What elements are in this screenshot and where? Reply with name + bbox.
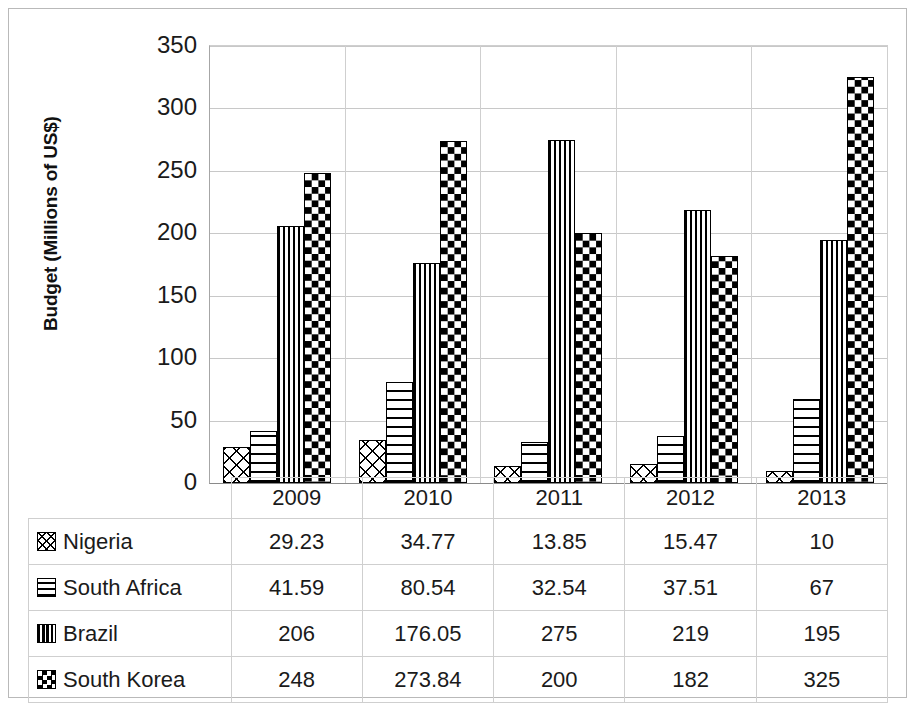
table-cell-southafrica-2010: 80.54 [362, 565, 493, 611]
table-column-header-2011: 2011 [494, 478, 625, 519]
bar-brazil-2013[interactable] [820, 240, 847, 483]
y-axis-tick-250: 250 [119, 158, 197, 182]
bar-brazil-2012[interactable] [684, 210, 711, 483]
table-cell-brazil-2009: 206 [231, 611, 362, 657]
bar-brazil-2011[interactable] [548, 140, 575, 483]
y-axis-tick-200: 200 [119, 220, 197, 244]
chart-plot-region: Budget (Millions of US$) 050100150200250… [9, 9, 906, 479]
y-axis-tick-labels: 050100150200250300350 [119, 37, 197, 487]
table-column-header-2009: 2009 [231, 478, 362, 519]
table-row: South Korea248273.84200182325 [29, 657, 888, 703]
bar-brazil-2010[interactable] [413, 263, 440, 483]
south-africa-swatch-icon [37, 578, 56, 597]
bar-southkorea-2010[interactable] [440, 141, 467, 483]
bar-southkorea-2011[interactable] [575, 233, 602, 483]
bar-southafrica-2010[interactable] [386, 382, 413, 483]
table-cell-southafrica-2012: 37.51 [625, 565, 756, 611]
bar-groups [210, 46, 887, 483]
bar-southafrica-2009[interactable] [250, 431, 277, 483]
chart-frame: Budget (Millions of US$) 050100150200250… [8, 8, 907, 698]
table-cell-nigeria-2013: 10 [756, 519, 887, 565]
bar-group-2013 [752, 46, 887, 483]
table-column-header-2012: 2012 [625, 478, 756, 519]
y-axis-tick-150: 150 [119, 283, 197, 307]
legend-label-nigeria: Nigeria [63, 529, 133, 555]
south-korea-swatch-icon [37, 670, 56, 689]
y-axis-tick-100: 100 [119, 345, 197, 369]
table-row: Nigeria29.2334.7713.8515.4710 [29, 519, 888, 565]
table-row: South Africa41.5980.5432.5437.5167 [29, 565, 888, 611]
table-cell-southkorea-2012: 182 [625, 657, 756, 703]
table-cell-southafrica-2009: 41.59 [231, 565, 362, 611]
table-cell-brazil-2010: 176.05 [362, 611, 493, 657]
legend-label-southafrica: South Africa [63, 575, 182, 601]
table-cell-nigeria-2010: 34.77 [362, 519, 493, 565]
table-column-header-2010: 2010 [362, 478, 493, 519]
bar-southkorea-2013[interactable] [847, 77, 874, 483]
bar-southkorea-2009[interactable] [304, 173, 331, 483]
table-cell-brazil-2012: 219 [625, 611, 756, 657]
table-row: Brazil206176.05275219195 [29, 611, 888, 657]
nigeria-swatch-icon [37, 532, 56, 551]
table-cell-southkorea-2011: 200 [494, 657, 625, 703]
table-cell-southkorea-2013: 325 [756, 657, 887, 703]
y-axis-tick-50: 50 [119, 408, 197, 432]
bar-brazil-2009[interactable] [277, 226, 304, 483]
bar-group-2011 [481, 46, 617, 483]
table-cell-nigeria-2009: 29.23 [231, 519, 362, 565]
bar-group-2012 [617, 46, 753, 483]
bar-southafrica-2013[interactable] [793, 399, 820, 483]
table-cell-brazil-2011: 275 [494, 611, 625, 657]
legend-label-southkorea: South Korea [63, 667, 185, 693]
table-corner-cell [29, 478, 232, 519]
plot-area [209, 45, 888, 484]
bar-southafrica-2012[interactable] [657, 436, 684, 483]
table-header-row: 20092010201120122013 [29, 478, 888, 519]
table-column-header-2013: 2013 [756, 478, 887, 519]
table-cell-nigeria-2012: 15.47 [625, 519, 756, 565]
legend-entry-southafrica: South Africa [29, 565, 232, 611]
brazil-swatch-icon [37, 624, 56, 643]
legend-entry-brazil: Brazil [29, 611, 232, 657]
legend-entry-nigeria: Nigeria [29, 519, 232, 565]
table-cell-southkorea-2009: 248 [231, 657, 362, 703]
legend-label-brazil: Brazil [63, 621, 118, 647]
bar-southkorea-2012[interactable] [711, 256, 738, 483]
table-cell-southafrica-2011: 32.54 [494, 565, 625, 611]
table-cell-southkorea-2010: 273.84 [362, 657, 493, 703]
y-axis-tick-350: 350 [119, 33, 197, 57]
table-cell-brazil-2013: 195 [756, 611, 887, 657]
bar-group-2009 [210, 46, 346, 483]
y-axis-tick-300: 300 [119, 95, 197, 119]
table-cell-nigeria-2011: 13.85 [494, 519, 625, 565]
bar-group-2010 [346, 46, 482, 483]
legend-entry-southkorea: South Korea [29, 657, 232, 703]
data-table: 20092010201120122013Nigeria29.2334.7713.… [28, 477, 888, 703]
y-axis-title: Budget (Millions of US$) [40, 121, 64, 331]
table-cell-southafrica-2013: 67 [756, 565, 887, 611]
